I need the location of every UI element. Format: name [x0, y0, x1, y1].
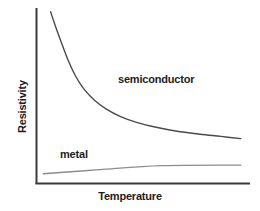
metal-annotation: metal: [60, 148, 88, 160]
x-axis-label: Temperature: [98, 190, 162, 202]
metal-curve: [43, 165, 241, 174]
resistivity-vs-temperature-chart: semiconductor metal Temperature Resistiv…: [0, 0, 260, 211]
plot-area: [0, 0, 260, 211]
y-axis-label: Resistivity: [16, 80, 28, 133]
semiconductor-annotation: semiconductor: [118, 73, 194, 85]
